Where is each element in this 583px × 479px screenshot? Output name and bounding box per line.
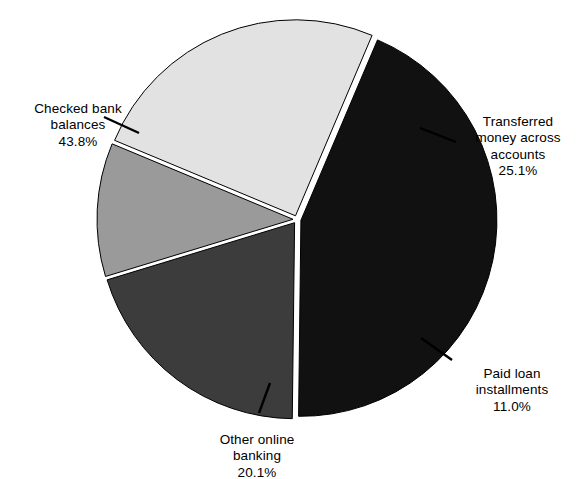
pie-label-transferred-money-across-accounts: Transferred money across accounts 25.1% <box>455 97 581 196</box>
pie-label-name-other-online-banking: Other online banking <box>220 432 295 464</box>
pie-label-value-checked-bank-balances: 43.8% <box>4 134 152 151</box>
pie-label-other-online-banking: Other online banking 20.1% <box>182 415 332 479</box>
pie-label-value-transferred-money-across-accounts: 25.1% <box>455 163 581 180</box>
pie-label-value-paid-loan-installments: 11.0% <box>448 399 576 416</box>
pie-slices <box>97 20 497 419</box>
pie-label-name-paid-loan-installments: Paid loan installments <box>476 366 548 398</box>
pie-label-name-checked-bank-balances: Checked bank balances <box>34 101 122 133</box>
pie-label-value-other-online-banking: 20.1% <box>182 465 332 479</box>
pie-label-paid-loan-installments: Paid loan installments 11.0% <box>448 349 576 432</box>
pie-chart: Checked bank balances 43.8% Transferred … <box>0 0 583 479</box>
pie-label-checked-bank-balances: Checked bank balances 43.8% <box>4 84 152 167</box>
pie-label-name-transferred-money-across-accounts: Transferred money across accounts <box>475 114 560 162</box>
